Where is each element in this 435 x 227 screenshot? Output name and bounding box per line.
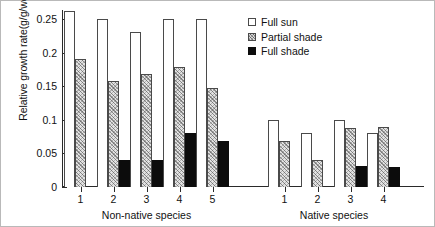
bar-sun bbox=[97, 19, 108, 187]
x-tick-label: 5 bbox=[210, 193, 216, 205]
y-tick-label: 0.15 bbox=[37, 80, 57, 92]
x-tick-mark bbox=[285, 187, 286, 192]
bar-group bbox=[130, 10, 163, 187]
x-tick-label: 2 bbox=[111, 193, 117, 205]
bar-partial bbox=[378, 127, 389, 187]
bar-full bbox=[389, 167, 400, 187]
y-tick-label: 0.05 bbox=[37, 147, 57, 159]
bar-partial bbox=[108, 81, 119, 187]
bar-group bbox=[163, 10, 196, 187]
bar-sun bbox=[301, 133, 312, 187]
y-tick-label: 0.25 bbox=[37, 13, 57, 25]
x-tick-label: 1 bbox=[78, 193, 84, 205]
x-tick-label: 4 bbox=[381, 193, 387, 205]
bar-partial bbox=[312, 160, 323, 187]
legend-item: Partial shade bbox=[248, 30, 322, 45]
bar-partial bbox=[345, 128, 356, 187]
panel-caption: Native species bbox=[300, 209, 368, 221]
legend-item: Full shade bbox=[248, 44, 322, 59]
x-tick-label: 3 bbox=[348, 193, 354, 205]
x-tick-label: 4 bbox=[177, 193, 183, 205]
y-tick-label: 0.1 bbox=[42, 114, 57, 126]
bar-sun bbox=[64, 11, 75, 187]
bar-sun bbox=[130, 32, 141, 187]
x-tick-mark bbox=[180, 187, 181, 192]
legend-swatch-full bbox=[248, 47, 256, 55]
bar-full bbox=[218, 141, 229, 187]
legend-swatch-sun bbox=[248, 18, 256, 26]
legend-label: Full shade bbox=[261, 44, 309, 59]
bar-group bbox=[334, 10, 367, 187]
bar-partial bbox=[75, 59, 86, 187]
bar-group bbox=[367, 10, 400, 187]
x-tick-mark bbox=[114, 187, 115, 192]
x-tick-mark bbox=[213, 187, 214, 192]
y-axis-ticks: 00.050.10.150.20.25 bbox=[23, 1, 57, 227]
x-tick-mark bbox=[81, 187, 82, 192]
bar-partial bbox=[279, 141, 290, 187]
y-tick-label: 0.2 bbox=[42, 47, 57, 59]
bar-full bbox=[185, 133, 196, 187]
bar-partial bbox=[141, 74, 152, 187]
y-tick-label: 0 bbox=[51, 181, 57, 193]
bar-group bbox=[64, 10, 97, 187]
panel-caption: Non-native species bbox=[102, 209, 191, 221]
plot-area bbox=[62, 10, 424, 187]
x-axis-area: 12345Non-native species1234Native specie… bbox=[62, 187, 424, 227]
legend-swatch-partial bbox=[248, 33, 256, 41]
bar-full bbox=[356, 166, 367, 188]
legend-label: Full sun bbox=[261, 15, 298, 30]
x-tick-label: 1 bbox=[282, 193, 288, 205]
chart-legend: Full sunPartial shadeFull shade bbox=[248, 15, 322, 59]
chart-figure: Relative growth rate(g/g/week) 00.050.10… bbox=[0, 0, 435, 227]
bar-full bbox=[152, 160, 163, 187]
bar-group bbox=[97, 10, 130, 187]
bar-full bbox=[119, 160, 130, 187]
bar-sun bbox=[367, 133, 378, 187]
bar-sun bbox=[196, 19, 207, 187]
bar-partial bbox=[207, 88, 218, 187]
legend-item: Full sun bbox=[248, 15, 322, 30]
bar-group bbox=[196, 10, 229, 187]
x-tick-mark bbox=[351, 187, 352, 192]
bar-partial bbox=[174, 67, 185, 187]
x-tick-mark bbox=[384, 187, 385, 192]
x-tick-mark bbox=[147, 187, 148, 192]
bar-sun bbox=[268, 120, 279, 187]
x-tick-label: 3 bbox=[144, 193, 150, 205]
x-tick-mark bbox=[318, 187, 319, 192]
bar-sun bbox=[334, 120, 345, 187]
legend-label: Partial shade bbox=[261, 30, 322, 45]
x-tick-label: 2 bbox=[315, 193, 321, 205]
bar-sun bbox=[163, 19, 174, 187]
